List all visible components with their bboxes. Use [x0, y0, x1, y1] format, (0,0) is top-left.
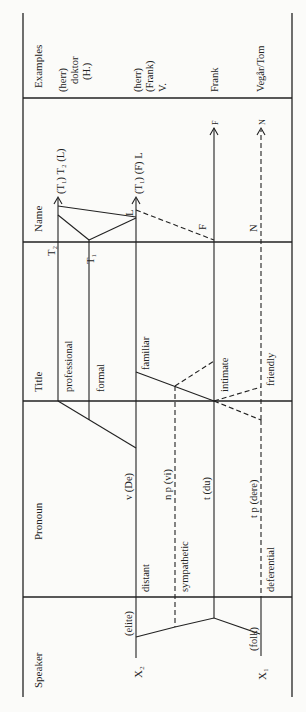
title-label-familiar: familiar	[140, 336, 151, 370]
arrow-label-f: F	[211, 120, 220, 125]
example-2-line-2: (Frank)	[144, 60, 156, 92]
header-speaker: Speaker	[32, 652, 44, 688]
label-t2: T₂	[46, 246, 57, 256]
pronoun-label-np: n p (vi)	[162, 469, 174, 500]
title-label-friendly: friendly	[265, 352, 276, 386]
address-system-diagram: Examples Name Title Pronoun Speaker (her…	[0, 0, 306, 712]
example-3: Frank	[209, 67, 220, 92]
speaker-label-elite: (elite)	[123, 610, 135, 636]
pronoun-label-v: v (De)	[123, 472, 135, 500]
pronoun-section: v (De) n p (vi) t (du) t p (dere) distan…	[58, 386, 276, 627]
example-1-line-3: (H.)	[81, 62, 93, 80]
pronoun-label-sympathetic: sympathetic	[179, 541, 190, 592]
name-label-row2: (T₁) (F) L	[133, 152, 145, 194]
name-section: (T₁) T₂ (L) (T₁) (F) L F N T₂ T₁ L F N	[46, 119, 267, 597]
example-1-line-1: (herr)	[57, 68, 69, 92]
example-2-line-3: V.	[157, 83, 168, 92]
speaker-label-folk: (folk)	[248, 627, 260, 651]
title-label-formal: formal	[95, 364, 106, 392]
name-label-row1: (T₁) T₂ (L)	[55, 148, 67, 194]
speaker-label-x2: X₂	[132, 666, 144, 678]
title-label-intimate: intimate	[219, 357, 230, 392]
header-name: Name	[32, 206, 44, 232]
header-title: Title	[32, 371, 44, 392]
example-4: Vegår/Tom	[255, 45, 266, 92]
pronoun-label-distant: distant	[140, 564, 151, 592]
title-label-professional: professional	[63, 341, 74, 392]
pronoun-label-t: t (du)	[201, 476, 213, 500]
speaker-section: (elite) (folk) X₂ X₁	[123, 597, 268, 680]
header-examples: Examples	[32, 45, 44, 88]
header-pronoun: Pronoun	[32, 502, 44, 540]
example-1-line-2: doktor	[69, 56, 80, 84]
column-headers: Examples Name Title Pronoun Speaker	[32, 45, 44, 688]
speaker-label-x1: X₁	[256, 668, 268, 680]
arrow-label-n: N	[258, 119, 267, 125]
example-2-line-1: (herr)	[132, 68, 144, 92]
label-t1: T₁	[85, 254, 96, 264]
examples-section: (herr) doktor (H.) (herr) (Frank) V. Fra…	[57, 45, 266, 92]
title-section: professional formal familiar intimate fr…	[58, 242, 276, 597]
label-n: N	[248, 224, 259, 232]
label-l: L	[124, 210, 135, 216]
label-f: F	[197, 224, 208, 230]
pronoun-label-deferential: deferential	[265, 547, 276, 592]
pronoun-label-tp: t p (dere)	[248, 479, 260, 518]
